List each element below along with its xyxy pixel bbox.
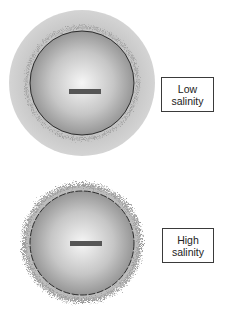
label-line1: High: [177, 234, 199, 246]
label-line1: Low: [178, 83, 197, 95]
minus-sign-icon: [70, 241, 102, 246]
particle-sphere: [30, 31, 134, 135]
label-low-salinity: Low salinity: [161, 77, 214, 112]
minus-sign-icon: [69, 89, 101, 94]
particle-low-salinity: [9, 10, 155, 156]
particle-high-salinity: [24, 185, 140, 301]
diagram-canvas: [0, 0, 229, 319]
label-high-salinity: High salinity: [162, 228, 214, 263]
label-line2: salinity: [172, 246, 204, 258]
label-line2: salinity: [171, 95, 203, 107]
